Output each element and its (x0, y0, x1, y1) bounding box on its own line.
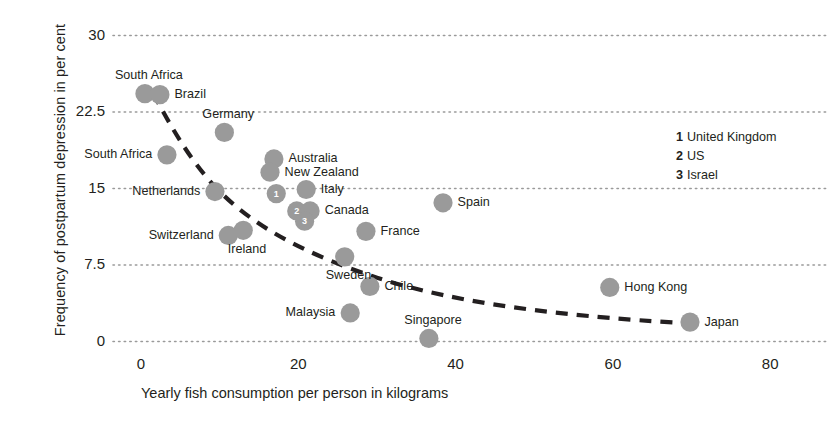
data-point-marker (297, 180, 316, 199)
legend-label: US (687, 149, 705, 163)
point-label: Italy (321, 183, 344, 196)
chart-canvas (0, 0, 835, 443)
data-point-marker (680, 313, 699, 332)
x-axis-tick-label: 80 (740, 355, 800, 372)
y-axis-tick-label: 0 (55, 332, 105, 349)
point-label: Ireland (228, 243, 267, 256)
point-label: Canada (325, 204, 369, 217)
x-axis-tick-label: 40 (426, 355, 486, 372)
point-label: Chile (384, 280, 413, 293)
data-point-marker (150, 85, 169, 104)
data-point-marker (341, 303, 360, 322)
data-point-marker (215, 123, 234, 142)
data-point-marker (260, 163, 279, 182)
legend-item: 3Israel (676, 166, 777, 185)
point-label: Germany (202, 108, 254, 121)
legend-item: 1United Kingdom (676, 128, 777, 147)
legend: 1United Kingdom 2US 3Israel (676, 128, 777, 185)
x-axis-tick-label: 0 (111, 355, 171, 372)
scatter-chart: Frequency of postpartum depression in pe… (0, 0, 835, 443)
data-point-marker (234, 221, 253, 240)
point-label: New Zealand (285, 166, 359, 179)
data-point-marker (335, 247, 354, 266)
data-point-marker (419, 329, 438, 348)
data-point-marker (356, 222, 375, 241)
legend-item: 2US (676, 147, 777, 166)
y-axis-tick-label: 15 (55, 179, 105, 196)
data-points (135, 84, 699, 348)
point-label: Australia (289, 152, 338, 165)
point-label: Japan (705, 316, 739, 329)
point-label: Sweden (326, 269, 372, 282)
y-axis-tick-label: 7.5 (55, 255, 105, 272)
y-axis-tick-label: 22.5 (55, 102, 105, 119)
data-point-marker (600, 278, 619, 297)
point-label: Singapore (404, 314, 461, 327)
data-point-marker (205, 182, 224, 201)
x-axis-tick-label: 60 (583, 355, 643, 372)
x-axis-title: Yearly fish consumption per person in ki… (141, 385, 448, 401)
legend-key: 3 (676, 166, 687, 185)
legend-label: United Kingdom (687, 130, 777, 144)
point-label: Brazil (174, 88, 206, 101)
y-axis-tick-label: 30 (55, 26, 105, 43)
point-label: Netherlands (132, 185, 200, 198)
point-label: France (381, 225, 420, 238)
data-point-marker (433, 193, 452, 212)
point-label: South Africa (115, 69, 183, 82)
data-point-marker (295, 212, 314, 231)
legend-key: 2 (676, 147, 687, 166)
point-label: Spain (458, 196, 490, 209)
point-label: Hong Kong (624, 281, 687, 294)
legend-key: 1 (676, 128, 687, 147)
point-label: Switzerland (149, 229, 214, 242)
data-point-marker (157, 145, 176, 164)
point-label: South Africa (84, 148, 152, 161)
x-axis-tick-label: 20 (268, 355, 328, 372)
data-point-marker (267, 184, 286, 203)
legend-label: Israel (687, 168, 718, 182)
point-label: Malaysia (286, 306, 336, 319)
